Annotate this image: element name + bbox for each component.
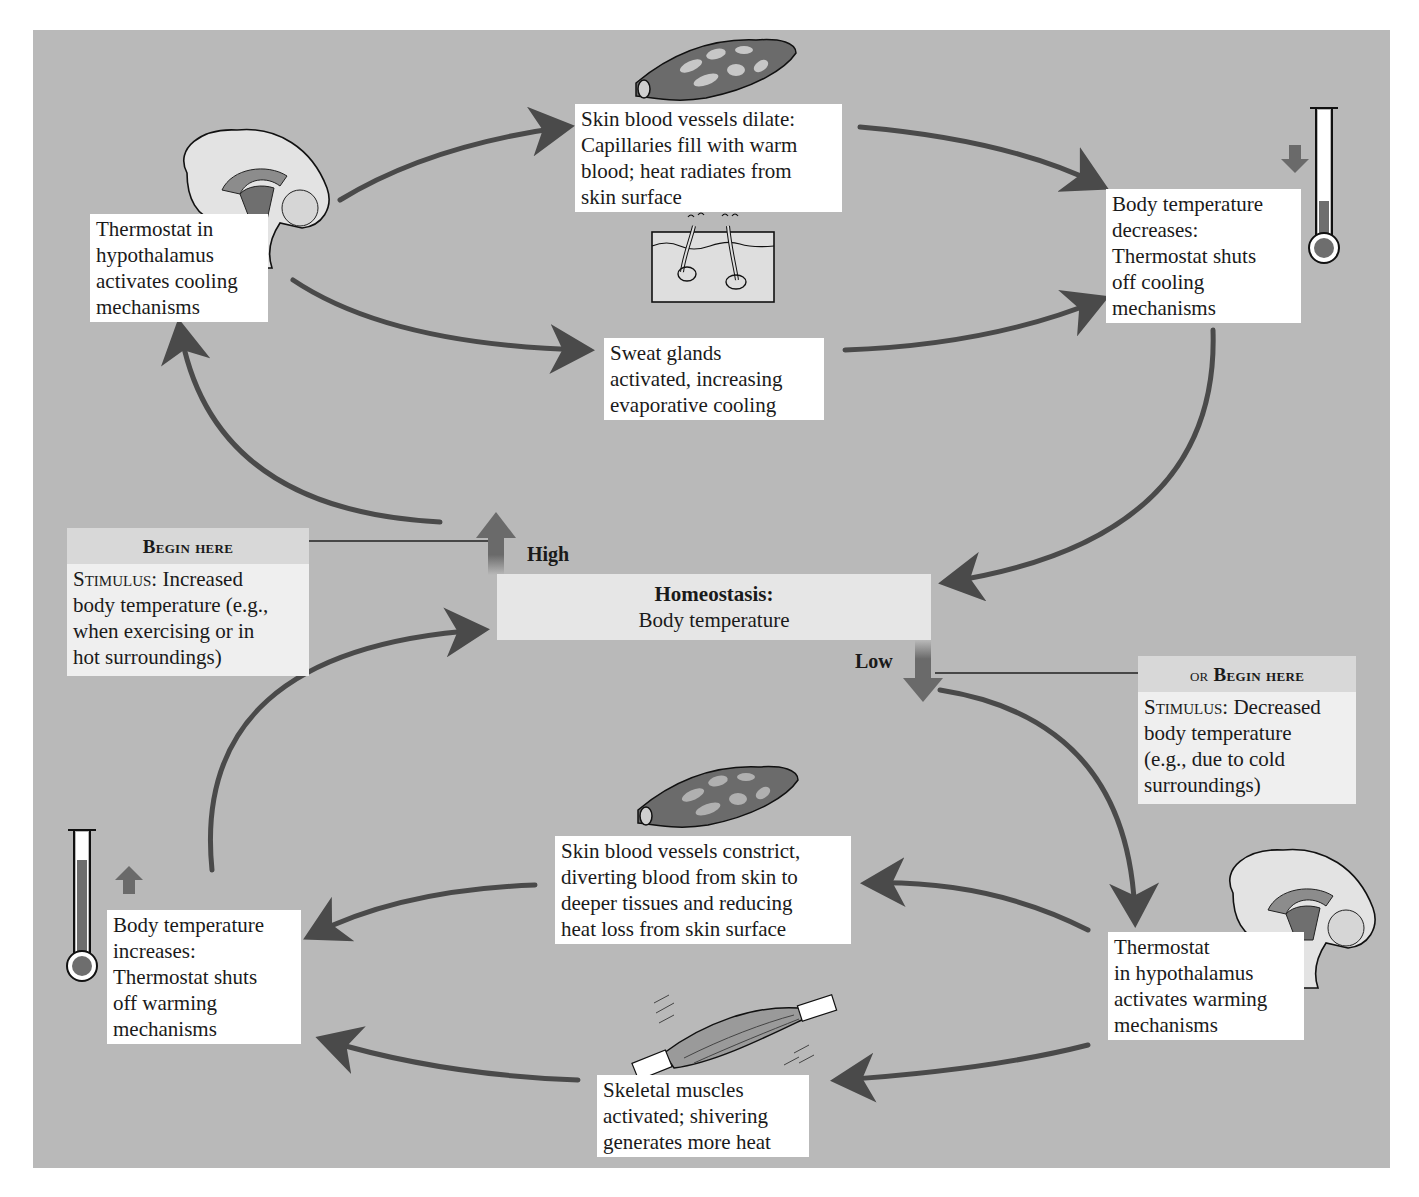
warming-thermostat-box: Thermostat in hypothalamus activates war… — [1108, 932, 1304, 1040]
high-label: High — [527, 543, 569, 566]
vessels-dilate-box: Skin blood vessels dilate: Capillaries f… — [575, 104, 842, 212]
sweat-glands-box: Sweat glands activated, increasing evapo… — [604, 338, 824, 420]
stimulus-label: Stimulus: — [1144, 695, 1228, 719]
stimulus-high-box: Begin here Stimulus: Increased body temp… — [67, 528, 309, 676]
low-label: Low — [855, 650, 893, 673]
stimulus-low-box: or Begin here Stimulus: Decreased body t… — [1138, 656, 1356, 804]
homeostasis-subtitle: Body temperature — [497, 607, 931, 633]
stimulus-low-text: Stimulus: Decreased body temperature (e.… — [1138, 692, 1356, 804]
stimulus-label: Stimulus: — [73, 567, 157, 591]
homeostasis-box: Homeostasis: Body temperature — [497, 574, 931, 640]
temp-decreases-box: Body temperature decreases: Thermostat s… — [1106, 189, 1301, 323]
stimulus-low-header: or Begin here — [1138, 656, 1356, 692]
stimulus-high-header: Begin here — [67, 528, 309, 564]
stimulus-high-text: Stimulus: Increased body temperature (e.… — [67, 564, 309, 676]
skeletal-muscles-box: Skeletal muscles activated; shivering ge… — [597, 1075, 809, 1157]
vessels-constrict-box: Skin blood vessels constrict, diverting … — [555, 836, 851, 944]
temp-increases-box: Body temperature increases: Thermostat s… — [107, 910, 301, 1044]
homeostasis-title: Homeostasis: — [497, 581, 931, 607]
cooling-thermostat-box: Thermostat in hypothalamus activates coo… — [90, 214, 268, 322]
